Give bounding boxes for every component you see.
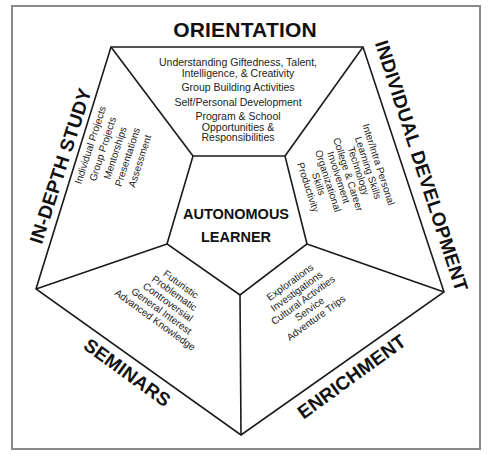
orientation-item: Intelligence, & Creativity bbox=[159, 68, 317, 79]
orientation-items: Understanding Giftedness, Talent, Intell… bbox=[159, 57, 317, 143]
orientation-item: Self/Personal Development bbox=[159, 97, 317, 108]
orientation-item: Program & School bbox=[159, 111, 317, 122]
orientation-item: Responsibilities bbox=[159, 132, 317, 143]
spoke-bottom bbox=[240, 295, 241, 435]
center-label-line: AUTONOMOUS bbox=[183, 203, 289, 226]
center-label-autonomous-learner: AUTONOMOUS LEARNER bbox=[183, 203, 289, 249]
section-title-orientation: ORIENTATION bbox=[173, 18, 317, 42]
orientation-item: Group Building Activities bbox=[159, 82, 317, 93]
center-label-line: LEARNER bbox=[183, 226, 289, 249]
orientation-item: Understanding Giftedness, Talent, bbox=[159, 57, 317, 68]
